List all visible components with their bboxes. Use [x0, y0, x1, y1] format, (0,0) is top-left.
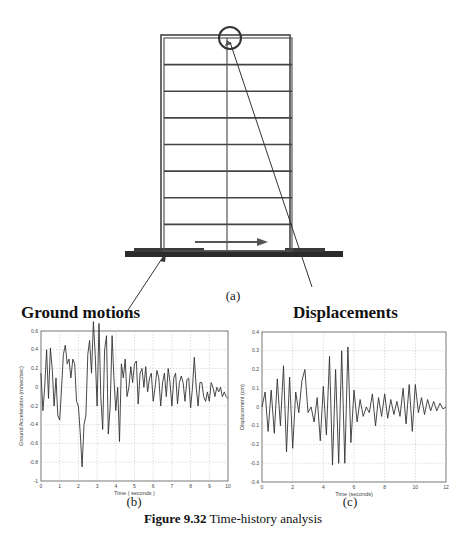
figure-caption: Figure 9.32 Time-history analysis [144, 511, 322, 526]
y-tick-label: 0.4 [31, 346, 38, 352]
y-tick-label: -0.2 [29, 403, 38, 409]
x-tick-label: 2 [77, 483, 80, 489]
x-tick-label: 0 [261, 484, 264, 490]
y-tick-label: 0.2 [252, 366, 259, 372]
y-tick-label: 0.2 [31, 365, 38, 371]
x-tick-label: 4 [322, 484, 325, 490]
x-tick-label: 1 [58, 483, 61, 489]
y-axis-label: Ground Acceleration (m/sec/sec) [18, 366, 24, 446]
y-tick-label: -0.4 [29, 421, 38, 427]
x-tick-label: 10 [413, 484, 419, 490]
panel-b-label: (b) [126, 494, 141, 509]
x-tick-label: 8 [189, 483, 192, 489]
displacements-annotation: Displacements [293, 303, 398, 322]
panel-c-label: (c) [343, 494, 357, 509]
y-axis-label: Displacement (cm) [239, 384, 245, 430]
y-tick-label: 0 [256, 404, 259, 410]
y-tick-label: 0.3 [252, 347, 259, 353]
y-tick-label: -1 [34, 478, 39, 484]
y-tick-label: 0.6 [31, 328, 38, 334]
x-tick-label: 5 [133, 483, 136, 489]
caption-prefix: Figure 9.32 [144, 511, 207, 526]
y-tick-label: -0.1 [250, 422, 259, 428]
caption-text: Time-history analysis [207, 511, 323, 526]
x-tick-label: 6 [353, 484, 356, 490]
figure-canvas: (a) Ground motions Displacements 0123456… [0, 0, 466, 533]
x-tick-label: 0 [40, 483, 43, 489]
x-tick-label: 6 [152, 483, 155, 489]
y-tick-label: 0.4 [252, 329, 259, 335]
x-tick-label: 10 [225, 483, 231, 489]
y-tick-label: -0.6 [29, 440, 38, 446]
y-tick-label: 0.1 [252, 385, 259, 391]
ground-acceleration-chart: 0123456789100.60.40.20-0.2-0.4-0.6-0.8-1… [18, 322, 231, 496]
y-tick-label: -0.8 [29, 459, 38, 465]
x-tick-label: 4 [114, 483, 117, 489]
y-tick-label: -0.3 [250, 460, 259, 466]
x-tick-label: 3 [96, 483, 99, 489]
y-tick-label: 0 [35, 384, 38, 390]
building-diagram [125, 27, 343, 310]
x-tick-label: 8 [383, 484, 386, 490]
x-tick-label: 2 [291, 484, 294, 490]
x-tick-label: 9 [208, 483, 211, 489]
y-tick-label: -0.4 [250, 479, 259, 485]
undeformed-frame [161, 35, 290, 251]
x-tick-label: 7 [171, 483, 174, 489]
ground-motions-annotation: Ground motions [21, 303, 141, 322]
y-tick-label: -0.2 [250, 441, 259, 447]
panel-a-label: (a) [226, 288, 240, 303]
displacement-chart: 0246810120.40.30.20.10-0.1-0.2-0.3-0.4Ti… [239, 329, 449, 497]
x-tick-label: 12 [443, 484, 449, 490]
